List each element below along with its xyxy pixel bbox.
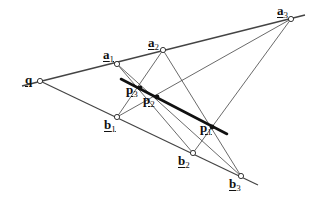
- point-b2: [190, 150, 195, 155]
- point-q: [37, 78, 42, 83]
- point-a1: [114, 61, 119, 66]
- label-a3: a3: [277, 4, 288, 20]
- label-p1: p1: [200, 121, 212, 137]
- label-a1: a1: [103, 48, 114, 64]
- point-p2: [155, 95, 160, 100]
- geometry-diagram: [0, 0, 334, 201]
- point-p3: [138, 86, 143, 91]
- point-a2: [160, 47, 165, 52]
- label-q: q: [25, 73, 32, 89]
- label-b3: b3: [229, 177, 241, 193]
- label-a2: a2: [148, 36, 159, 52]
- line-a1-b2: [117, 64, 193, 153]
- point-a3: [288, 16, 293, 21]
- label-b1: b1: [104, 118, 116, 134]
- label-p3: p3: [126, 83, 138, 99]
- label-b2: b2: [178, 154, 190, 170]
- label-p2: p2: [143, 93, 155, 109]
